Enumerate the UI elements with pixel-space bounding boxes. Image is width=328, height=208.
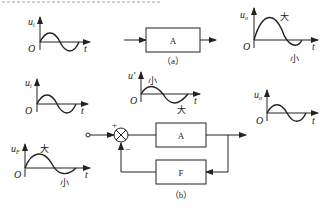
y-label: uo [240, 9, 248, 21]
input-terminal [86, 133, 90, 137]
block-diagram-b: + − A F （b） [86, 120, 246, 200]
plus-sign: + [112, 120, 117, 130]
minus-sign: − [125, 144, 130, 154]
plot-b-net-input: u′ O t 小 大 [128, 70, 200, 115]
caption-b: （b） [170, 190, 193, 200]
plot-b-output: uo O t [254, 89, 318, 126]
block-a-label: A [178, 131, 185, 141]
x-label: t [194, 95, 197, 106]
y-label: uo [254, 89, 262, 101]
origin-label: O [28, 43, 35, 54]
y-label: ui [25, 77, 32, 89]
peak-label: 大 [280, 11, 289, 22]
amplified-wave [254, 18, 302, 46]
caption-a: （a） [162, 56, 184, 66]
block-a-label: A [170, 36, 177, 46]
x-label: t [312, 115, 315, 126]
origin-label: O [243, 41, 250, 52]
block-f-label: F [178, 168, 183, 178]
trough-label: 小 [290, 54, 299, 64]
plot-b-feedback: uF O t 大 小 [11, 143, 90, 188]
x-label: t [312, 41, 315, 52]
x-label: t [85, 169, 88, 180]
plot-a-input: ui O t [28, 16, 90, 54]
trough-label: 小 [60, 178, 69, 188]
y-label: ui [28, 16, 35, 28]
origin-label: O [25, 105, 32, 116]
x-label: t [84, 43, 87, 54]
plot-b-input: ui O t [25, 77, 88, 116]
plot-a-output: uo O t 大 小 [240, 8, 318, 64]
origin-label: O [14, 169, 21, 180]
origin-label: O [130, 95, 137, 106]
block-diagram-a: A （a） [124, 28, 216, 66]
origin-label: O [256, 115, 263, 126]
y-label: u′ [128, 70, 136, 81]
feedback-tap-line [206, 135, 228, 172]
x-label: t [81, 105, 84, 116]
feedback-diagram: ui O t A （a） uo O t 大 小 ui O t u′ O t [0, 0, 328, 208]
trough-label: 大 [177, 104, 186, 115]
peak-label: 大 [40, 143, 49, 154]
feedback-wave [25, 154, 76, 174]
net-wave [141, 87, 188, 104]
peak-label: 小 [148, 76, 157, 86]
y-label: uF [11, 143, 20, 155]
